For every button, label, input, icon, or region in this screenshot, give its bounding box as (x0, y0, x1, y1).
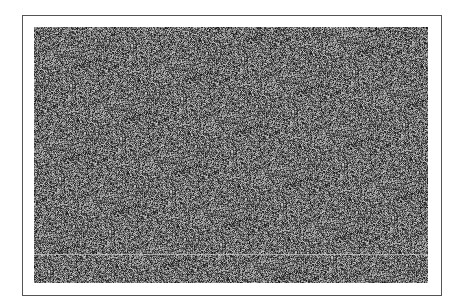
noise-image (34, 27, 428, 283)
horizontal-scanline (34, 254, 428, 255)
noise-canvas (34, 27, 428, 283)
